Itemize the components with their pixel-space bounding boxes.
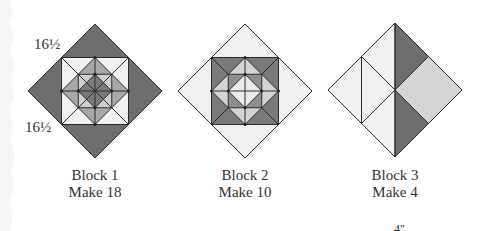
block-2-title: Block 2 xyxy=(195,167,295,184)
dimension-label-bottom: 16½ xyxy=(25,119,51,136)
block-1-quantity: Make 18 xyxy=(45,184,145,201)
block-1-caption: Block 1 Make 18 xyxy=(45,167,145,201)
block-3-caption: Block 3 Make 4 xyxy=(345,167,445,201)
block-3-quantity: Make 4 xyxy=(345,184,445,201)
block-3-diagram xyxy=(328,23,462,157)
block-2-diagram xyxy=(178,24,312,158)
block-3-title: Block 3 xyxy=(345,167,445,184)
block-2-caption: Block 2 Make 10 xyxy=(195,167,295,201)
footer-dimension-fragment: 4" xyxy=(394,222,405,231)
block-1-title: Block 1 xyxy=(45,167,145,184)
block-2-quantity: Make 10 xyxy=(195,184,295,201)
dimension-label-top: 16½ xyxy=(34,36,60,53)
